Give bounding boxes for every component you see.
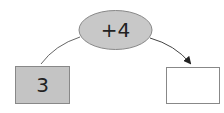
operation-label: +4 xyxy=(79,11,152,49)
output-value xyxy=(166,67,220,104)
input-value: 3 xyxy=(15,66,70,104)
connector-right-arrow xyxy=(150,38,190,63)
connector-left-arc xyxy=(41,37,80,64)
